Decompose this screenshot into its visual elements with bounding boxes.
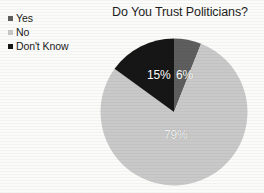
legend-label-dont-know: Don't Know <box>16 40 68 53</box>
legend-swatch-dont-know <box>8 44 13 49</box>
legend-item-yes[interactable]: Yes <box>8 12 92 25</box>
pie-chart-figure: Do You Trust Politicians? Yes No Don't K… <box>0 0 264 193</box>
legend-swatch-yes <box>8 16 13 21</box>
legend-item-dont-know[interactable]: Don't Know <box>8 40 92 53</box>
legend-label-yes: Yes <box>16 12 33 25</box>
slice-label-no: 79% <box>164 128 187 142</box>
chart-legend: Yes No Don't Know <box>8 12 92 54</box>
slice-label-yes: 6% <box>176 68 193 82</box>
chart-title: Do You Trust Politicians? <box>96 5 264 19</box>
pie-graphic <box>100 38 248 186</box>
slice-label-dont-know: 15% <box>147 68 170 82</box>
legend-swatch-no <box>8 30 13 35</box>
pie-svg <box>100 38 248 186</box>
legend-label-no: No <box>16 26 29 39</box>
legend-item-no[interactable]: No <box>8 26 92 39</box>
